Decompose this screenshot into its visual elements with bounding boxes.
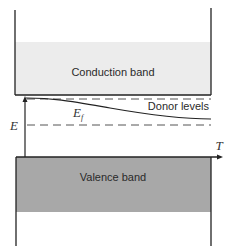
temperature-axis-label: T — [215, 138, 223, 153]
band-diagram: Conduction band Valence band Donor level… — [0, 0, 226, 246]
fermi-level-label: Ef — [72, 105, 85, 122]
valence-band-region — [16, 157, 211, 212]
fermi-level-subscript: f — [81, 113, 85, 122]
fermi-level-symbol: E — [72, 105, 81, 120]
energy-axis-label: E — [9, 118, 18, 133]
temperature-axis-arrowhead — [217, 155, 223, 160]
conduction-band-label: Conduction band — [71, 66, 154, 78]
donor-levels-label: Donor levels — [148, 100, 210, 112]
energy-axis-arrowhead — [23, 96, 28, 102]
valence-band-label: Valence band — [80, 171, 146, 183]
